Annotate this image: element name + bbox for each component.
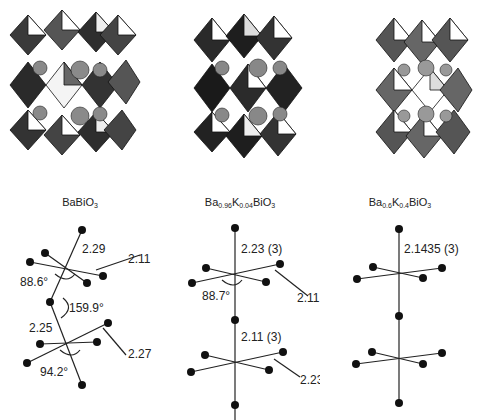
- formula-label-ba096k004bio3: Ba0.96K0.04BiO3: [160, 196, 320, 209]
- bond-length-apical: 2.1435 (3): [404, 242, 459, 256]
- angle-bridge: 159.9°: [69, 301, 104, 315]
- bond-length-upper-apical: 2.29: [82, 242, 106, 256]
- bond-length-upper-apical: 2.23 (3): [241, 242, 282, 256]
- octahedron-row-top: [10, 10, 136, 55]
- bond-length-upper-equatorial: 2.11: [128, 252, 151, 266]
- angle-upper: 88.6°: [20, 275, 48, 289]
- bond-length-lower-equatorial: 2.23 (3): [300, 373, 320, 387]
- crystal-structure-ba096k004bio3: [160, 0, 320, 170]
- angle-lower: 94.2°: [40, 365, 68, 379]
- octahedra-geometry-ba06k04bio3: 2.1435 (3): [320, 210, 480, 420]
- crystal-structure-babio3: [0, 0, 160, 170]
- bond-length-lower-apical: 2.11 (3): [241, 330, 281, 344]
- bond-length-lower-apical: 2.25: [29, 321, 53, 335]
- octahedra-geometry-babio3: 2.29 2.11 88.6° 159.9° 2.25 2.27 94.2°: [0, 210, 160, 420]
- panel-babio3: BaBiO3 2.29 2.11 88.6° 159.9° 2.25 2.27 …: [0, 0, 160, 420]
- panel-ba096k004bio3: Ba0.96K0.04BiO3 2.23 (3) 2.11 (3) 88.7° …: [160, 0, 320, 420]
- panel-ba06k04bio3: Ba0.6K0.4BiO3 2.1435 (3): [320, 0, 480, 420]
- angle-upper: 88.7°: [202, 289, 230, 303]
- crystal-structure-ba06k04bio3: [320, 0, 480, 170]
- formula-label-ba06k04bio3: Ba0.6K0.4BiO3: [320, 196, 480, 209]
- bond-length-lower-equatorial: 2.27: [128, 347, 152, 361]
- bond-length-upper-equatorial: 2.11 (3): [297, 291, 320, 305]
- octahedra-geometry-ba096k004bio3: 2.23 (3) 2.11 (3) 88.7° 2.11 (3) 2.23 (3…: [160, 210, 320, 420]
- formula-label-babio3: BaBiO3: [0, 196, 160, 209]
